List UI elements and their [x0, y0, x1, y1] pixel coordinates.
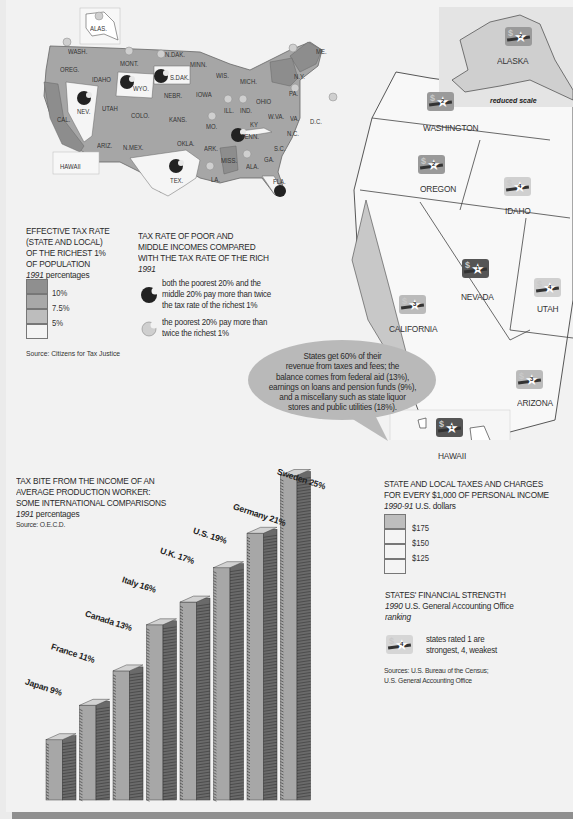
- legend-rich-tax-title-2: (STATE AND LOCAL): [26, 237, 110, 248]
- map-state-label: KY: [250, 121, 258, 128]
- western-state-label: WASHINGTON: [423, 122, 478, 133]
- map-state-label: N.Y.: [294, 73, 305, 80]
- legend-poor-title-2: MIDDLE INCOMES COMPARED: [138, 242, 269, 253]
- map-state-label: LA.: [211, 176, 220, 183]
- map-state-label: COLO.: [131, 112, 150, 119]
- us-map: [0, 0, 360, 200]
- dark-bitten-circle-icon: [140, 286, 158, 304]
- western-state-label: CALIFORNIA: [389, 323, 437, 334]
- legend-poor-vs-rich: TAX RATE OF POOR AND MIDDLE INCOMES COMP…: [138, 231, 283, 275]
- map-state-label: MINN.: [190, 61, 207, 68]
- map-state-label: ILL.: [224, 107, 234, 114]
- legend-175-label: $175: [412, 524, 429, 534]
- map-state-label: VA.: [290, 115, 299, 122]
- credit-card-rank-icon: $★2: [505, 27, 532, 46]
- map-state-label: ARIZ.: [97, 142, 112, 149]
- chart-title-block: TAX BITE FROM THE INCOME OF AN AVERAGE P…: [16, 476, 183, 530]
- legend-rich-tax-title-3: OF THE RICHEST 1%: [26, 248, 110, 259]
- map-state-label: KANS.: [169, 116, 187, 123]
- map-state-label: UTAH: [102, 105, 118, 112]
- map-state-label: ALAS.: [90, 25, 107, 32]
- credit-card-rank-icon: $★1: [436, 418, 463, 437]
- legend-rich-tax-title-1: EFFECTIVE TAX RATE: [26, 226, 110, 237]
- map-state-label: IND.: [240, 107, 252, 114]
- map-state-label: CAL.: [57, 116, 70, 123]
- map-state-label: TENN.: [241, 133, 259, 140]
- legend-150-label: $150: [412, 539, 429, 549]
- speech-bubble-text: States get 60% of their revenue from tax…: [255, 352, 430, 414]
- western-state-label: HAWAII: [438, 450, 466, 461]
- legend-state-local-title-1: STATE AND LOCAL TAXES AND CHARGES: [384, 479, 549, 490]
- credit-card-rank-icon: $★3: [516, 370, 543, 389]
- map-state-label: N.DAK.: [165, 51, 185, 58]
- credit-card-rank-icon: $★2: [418, 155, 445, 174]
- legend-poor-title-1: TAX RATE OF POOR AND: [138, 231, 269, 242]
- western-state-label: OREGON: [420, 183, 456, 194]
- map-state-label: WIS.: [216, 72, 229, 79]
- legend-125-label: $125: [412, 554, 429, 564]
- chart-title-1: TAX BITE FROM THE INCOME OF AN: [16, 476, 166, 487]
- map-state-label: ME.: [316, 48, 327, 55]
- map-state-label: MO.: [206, 123, 217, 130]
- map-state-label: TEX.: [170, 177, 183, 184]
- legend-5-label: 5%: [52, 319, 63, 329]
- legend-rich-tax: EFFECTIVE TAX RATE (STATE AND LOCAL) OF …: [26, 226, 119, 281]
- chart-source: Source: O.E.C.D.: [16, 520, 166, 530]
- light-bitten-circle-icon: [140, 320, 158, 338]
- legend-state-local-title-2: FOR EVERY $1,000 OF PERSONAL INCOME: [384, 490, 549, 501]
- map-state-label: D.C.: [310, 118, 322, 125]
- credit-card-rank-icon: $★2: [427, 92, 454, 111]
- legend-financial-title: STATES' FINANCIAL STRENGTH: [385, 590, 514, 601]
- swatch-below: [26, 324, 48, 339]
- legend-rich-tax-source: Source: Citizens for Tax Justice: [26, 349, 120, 359]
- credit-card-rank-icon: $★3: [399, 295, 426, 314]
- map-state-label: ARK.: [204, 145, 218, 152]
- western-state-label: UTAH: [537, 303, 558, 314]
- legend-state-local: STATE AND LOCAL TAXES AND CHARGES FOR EV…: [384, 479, 567, 512]
- legend-poor-item-2: the poorest 20% pay more than twice the …: [162, 317, 279, 339]
- legend-poor-year: 1991: [138, 264, 156, 274]
- map-state-label: W.VA.: [268, 113, 284, 120]
- map-state-label: N.MEX.: [123, 144, 144, 151]
- map-state-label: S.DAK.: [170, 74, 190, 81]
- map-state-label: MICH.: [240, 78, 257, 85]
- alaska-reduced-scale-note: reduced scale: [490, 97, 537, 104]
- credit-card-rank-icon: $★4: [534, 278, 561, 297]
- map-state-label: N.C.: [287, 130, 299, 137]
- map-state-label: IDAHO: [92, 76, 111, 83]
- map-state-label: OHIO: [256, 98, 271, 105]
- swatch-10: [26, 279, 48, 294]
- map-state-label: MISS.: [221, 157, 237, 164]
- map-state-label: WASH.: [68, 48, 87, 55]
- swatch-5: [26, 309, 48, 324]
- credit-card-rank-icon: $★4: [504, 177, 531, 196]
- map-state-label: NEV.: [77, 108, 90, 115]
- page-bottom-edge: [12, 812, 573, 819]
- chart-title-3: SOME INTERNATIONAL COMPARISONS: [16, 498, 166, 509]
- western-state-label: ALASKA: [497, 55, 528, 66]
- map-state-label: FLA.: [273, 178, 286, 185]
- map-state-label: OREG.: [60, 66, 79, 73]
- map-state-label: S.C.: [274, 145, 286, 152]
- legend-7-5-label: 7.5%: [52, 304, 69, 314]
- state-tex: [130, 150, 200, 196]
- map-state-label: IOWA: [196, 91, 212, 98]
- credit-card-rank-icon: $★4: [386, 635, 413, 654]
- western-state-label: NEVADA: [461, 291, 494, 302]
- swatch-7-5: [26, 294, 48, 309]
- map-state-label: GA.: [264, 156, 274, 163]
- western-state-label: IDAHO: [505, 205, 531, 216]
- legend-state-local-swatches: $175 $150 $125: [384, 514, 454, 578]
- legend-10-label: 10%: [52, 289, 67, 299]
- credit-card-rank-icon: $★1: [462, 259, 489, 278]
- map-state-label: ALA.: [246, 163, 259, 170]
- legend-poor-title-3: WITH THE TAX RATE OF THE RICH: [138, 253, 269, 264]
- map-state-label: OKLA.: [177, 140, 195, 147]
- chart-title-2: AVERAGE PRODUCTION WORKER:: [16, 487, 166, 498]
- legend-rich-tax-title-4: OF POPULATION: [26, 259, 110, 270]
- legend-rich-tax-swatches: 10% 7.5% 5%: [26, 279, 86, 343]
- legend-financial-sources: Sources: U.S. Bureau of the Census; U.S.…: [384, 666, 500, 685]
- map-state-label: MONT.: [120, 60, 139, 67]
- map-state-label: HAWAII: [60, 163, 81, 170]
- legend-financial-strength: STATES' FINANCIAL STRENGTH 1990 U.S. Gen…: [385, 590, 528, 623]
